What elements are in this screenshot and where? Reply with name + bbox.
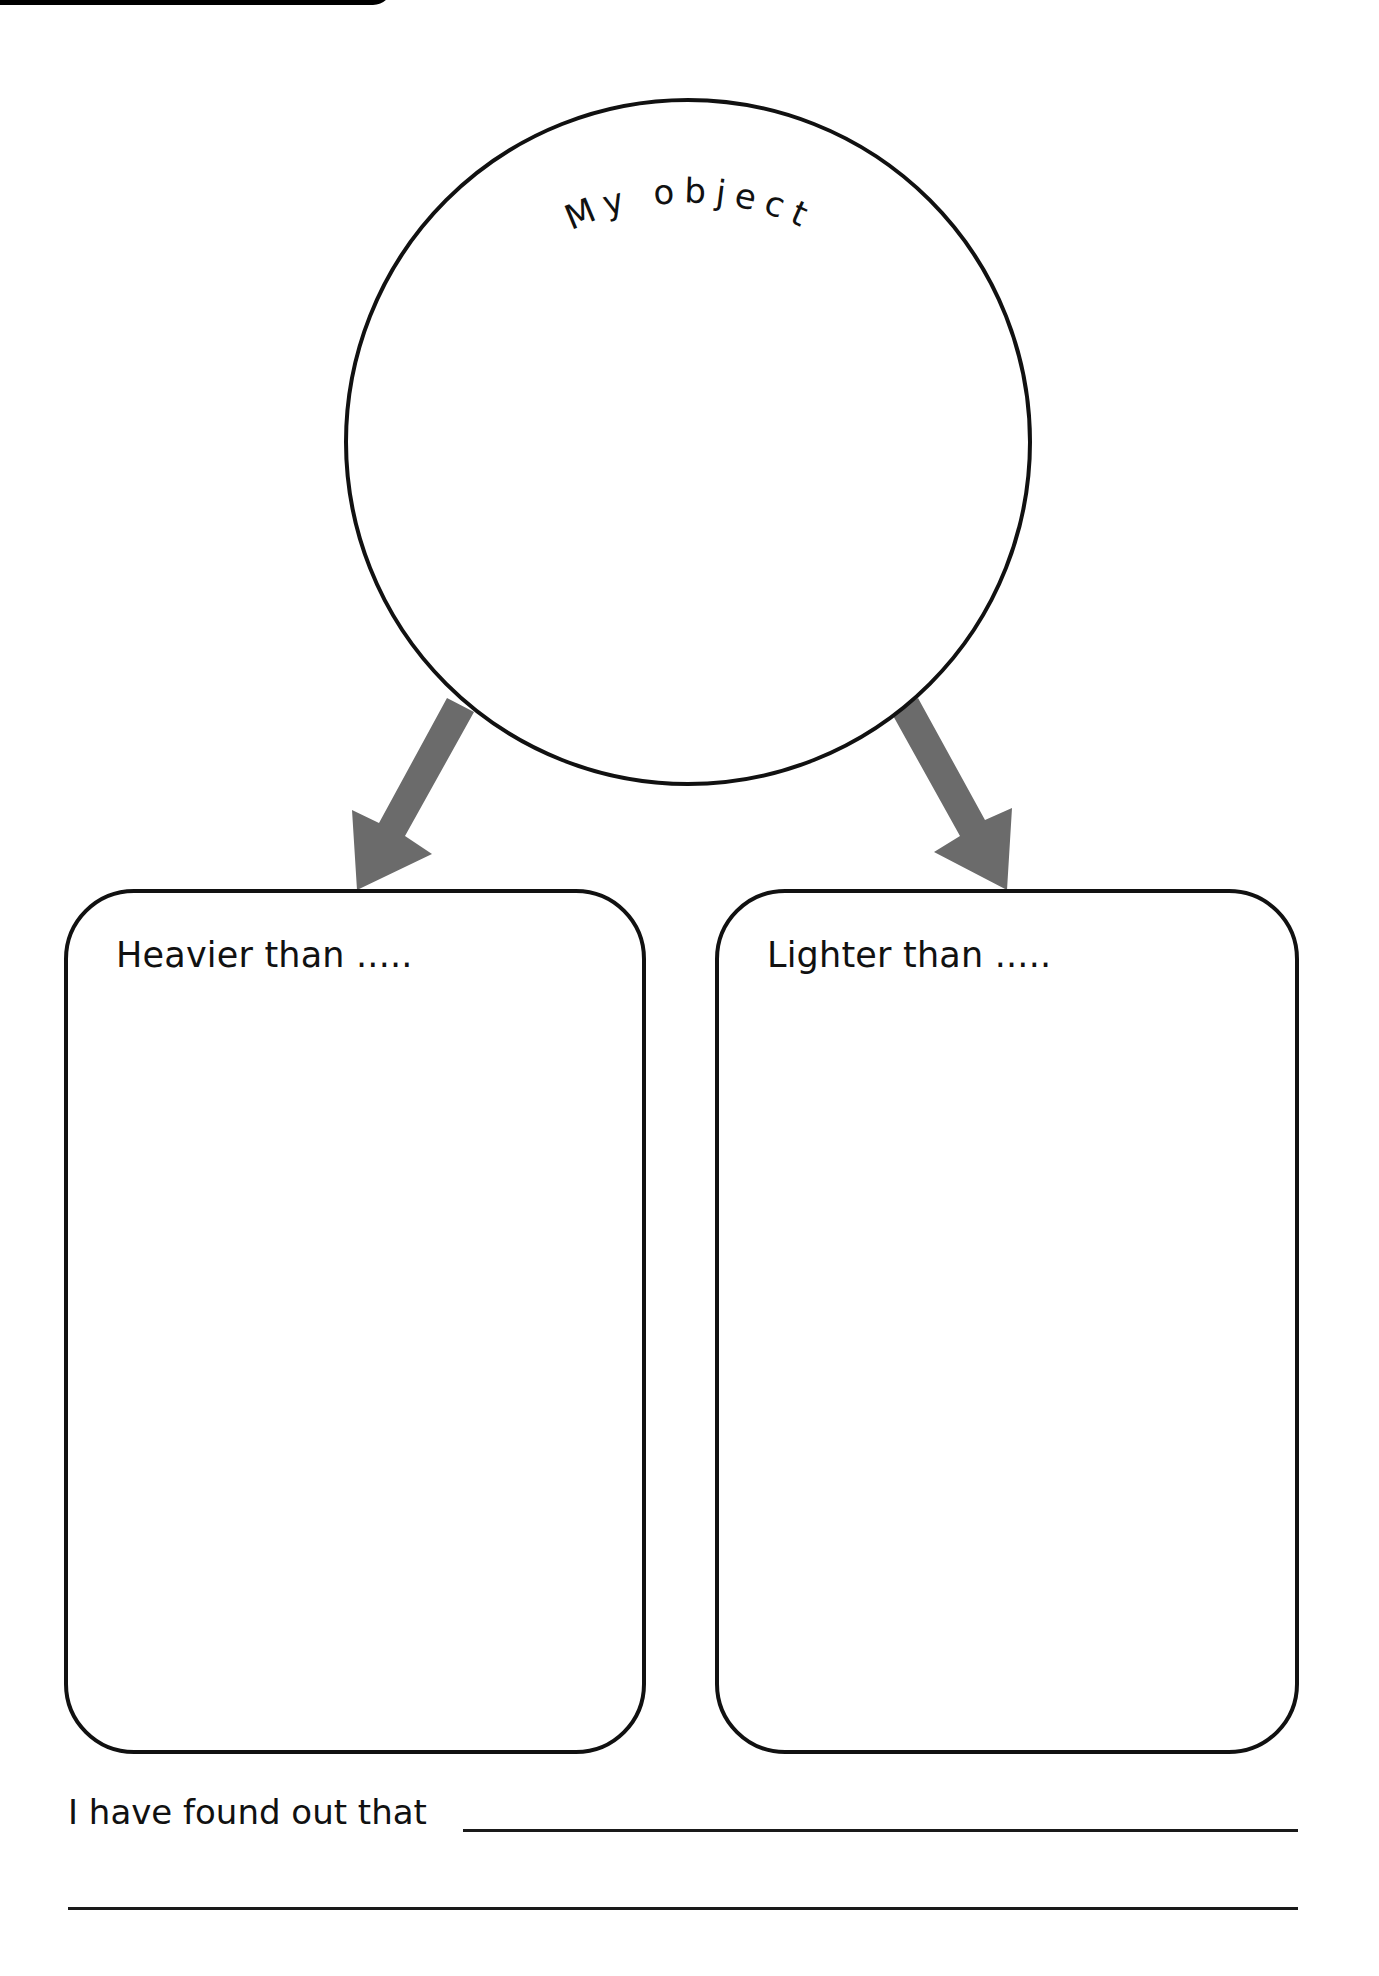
answer-line-1[interactable] [463,1829,1298,1832]
lighter-than-label: Lighter than ..... [767,935,1051,975]
arrow-lighter-icon [891,698,1012,890]
worksheet-diagram: My object [0,0,1379,1976]
arrow-heavier-icon [352,698,474,890]
heavier-than-box[interactable] [66,891,644,1752]
heavier-than-label: Heavier than ..... [116,935,413,975]
lighter-than-box[interactable] [717,891,1297,1752]
answer-line-2[interactable] [68,1907,1298,1910]
conclusion-prompt: I have found out that [68,1792,427,1832]
